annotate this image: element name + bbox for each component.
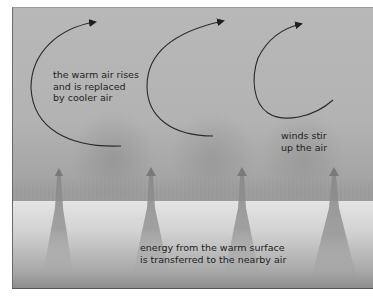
winds-label: winds stir up the air [281, 130, 327, 153]
rising-air-label: the warm air rises and is replaced by co… [53, 69, 139, 104]
upward-arrow-icon [43, 168, 73, 273]
energy-label: energy from the warm surface is transfer… [140, 242, 286, 265]
upward-arrow-icon [310, 167, 358, 283]
diagram-frame: the warm air rises and is replaced by co… [12, 7, 373, 289]
curved-arrow-icon [147, 21, 223, 136]
curved-arrow-icon [254, 24, 333, 118]
